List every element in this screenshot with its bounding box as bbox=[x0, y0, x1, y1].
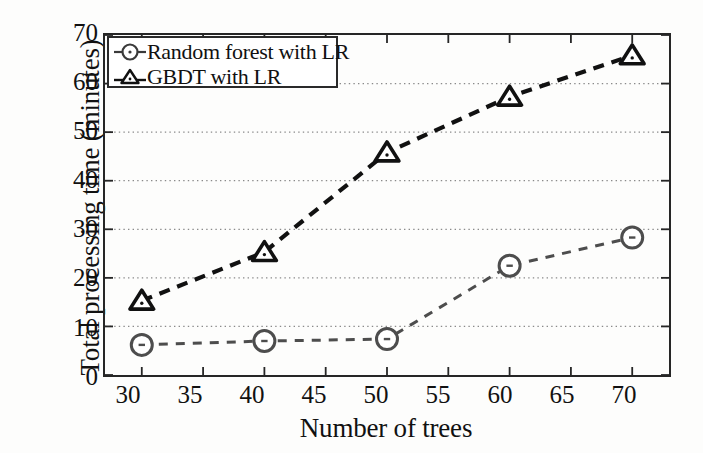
y-tick-label: 20 bbox=[52, 265, 98, 290]
y-tick-label: 0 bbox=[52, 364, 98, 389]
data-point-marker bbox=[254, 331, 275, 352]
plot-area: Random forest with LR GBDT with LR bbox=[103, 33, 671, 377]
triangle-marker-icon bbox=[113, 65, 147, 89]
y-tick-label: 40 bbox=[52, 167, 98, 192]
data-point-marker bbox=[620, 45, 644, 64]
y-tick-label: 70 bbox=[52, 20, 98, 45]
x-tick-label: 55 bbox=[413, 381, 463, 408]
gridlines bbox=[105, 84, 669, 327]
data-point-marker bbox=[622, 227, 643, 248]
legend-label: Random forest with LR bbox=[147, 41, 349, 63]
series-line bbox=[142, 55, 632, 300]
y-axis-tick-labels: 70 60 50 40 30 20 10 0 bbox=[40, 0, 98, 453]
y-tick-label: 60 bbox=[52, 69, 98, 94]
x-tick-label: 35 bbox=[165, 381, 215, 408]
data-point-marker bbox=[377, 329, 398, 350]
legend-box: Random forest with LR GBDT with LR bbox=[107, 36, 338, 88]
chart-figure: Total processing time (minutes) 70 60 50… bbox=[0, 0, 703, 453]
y-tick-label: 50 bbox=[52, 118, 98, 143]
x-tick-label: 50 bbox=[351, 381, 401, 408]
legend-item-random-forest: Random forest with LR bbox=[109, 39, 336, 64]
x-tick-label: 30 bbox=[103, 381, 153, 408]
y-tick-label: 10 bbox=[52, 315, 98, 340]
x-tick-label: 65 bbox=[537, 381, 587, 408]
x-tick-label: 60 bbox=[475, 381, 525, 408]
x-axis-title: Number of trees bbox=[100, 413, 672, 444]
x-tick-label: 40 bbox=[227, 381, 277, 408]
data-point-marker bbox=[131, 334, 152, 355]
data-point-marker bbox=[499, 255, 520, 276]
legend-item-gbdt: GBDT with LR bbox=[109, 64, 336, 89]
data-series-layer bbox=[130, 45, 644, 355]
y-tick-label: 30 bbox=[52, 216, 98, 241]
legend-label: GBDT with LR bbox=[147, 66, 281, 88]
circle-marker-icon bbox=[113, 40, 147, 64]
x-tick-label: 70 bbox=[599, 381, 649, 408]
data-point-marker bbox=[375, 142, 399, 161]
data-point-marker bbox=[498, 86, 522, 105]
x-tick-label: 45 bbox=[289, 381, 339, 408]
